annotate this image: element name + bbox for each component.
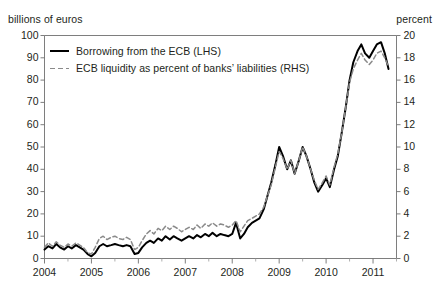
- right-axis-tick-12: 12: [404, 118, 430, 130]
- plot-area: [0, 0, 438, 290]
- x-axis-tick-2008: 2008: [212, 266, 252, 278]
- left-axis-tick-10: 10: [13, 229, 39, 241]
- x-axis-tick-2006: 2006: [118, 266, 158, 278]
- chart-figure: billions of euros percent Borrowing from…: [0, 0, 438, 290]
- left-axis-tick-40: 40: [13, 162, 39, 174]
- left-axis-tick-70: 70: [13, 95, 39, 107]
- right-axis-tick-16: 16: [404, 73, 430, 85]
- left-axis-tick-80: 80: [13, 73, 39, 85]
- x-axis-tick-2005: 2005: [71, 266, 111, 278]
- left-axis-tick-90: 90: [13, 51, 39, 63]
- x-axis-tick-2004: 2004: [25, 266, 65, 278]
- left-axis-tick-20: 20: [13, 207, 39, 219]
- right-axis-tick-4: 4: [404, 207, 430, 219]
- x-axis-tick-2010: 2010: [306, 266, 346, 278]
- left-axis-tick-60: 60: [13, 118, 39, 130]
- series-line-liquidity: [45, 51, 389, 254]
- right-axis-tick-18: 18: [404, 51, 430, 63]
- right-axis-tick-0: 0: [404, 252, 430, 264]
- right-axis-tick-6: 6: [404, 185, 430, 197]
- left-axis-tick-30: 30: [13, 185, 39, 197]
- x-axis-tick-2009: 2009: [259, 266, 299, 278]
- right-axis-tick-14: 14: [404, 95, 430, 107]
- x-axis-tick-2011: 2011: [353, 266, 393, 278]
- right-axis-tick-20: 20: [404, 29, 430, 41]
- right-axis-tick-10: 10: [404, 140, 430, 152]
- right-axis-tick-8: 8: [404, 162, 430, 174]
- left-axis-tick-50: 50: [13, 140, 39, 152]
- left-axis-tick-0: 0: [13, 252, 39, 264]
- left-axis-tick-100: 100: [13, 29, 39, 41]
- series-line-borrowing: [45, 42, 389, 256]
- right-axis-tick-2: 2: [404, 229, 430, 241]
- x-axis-tick-2007: 2007: [165, 266, 205, 278]
